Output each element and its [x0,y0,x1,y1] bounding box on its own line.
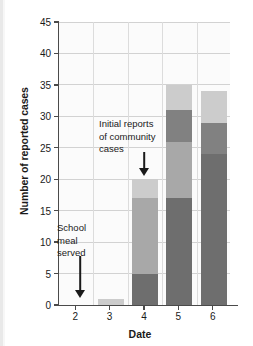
y-tick-label: 0 [45,300,51,311]
chart-figure: Number of reported cases Date 0510152025… [0,0,253,346]
y-axis-title: Number of reported cases [18,51,30,251]
y-tick-mark [54,147,59,148]
y-tick-mark [54,210,59,211]
annotation-arrow-school-icon [74,256,86,298]
bar-6 [201,91,227,305]
y-gridline [59,84,230,85]
bar-segment-dark-gray-segment [166,198,192,305]
bar-segment-dark-gray-segment [132,274,158,305]
x-gridline [93,22,94,305]
y-tick-label: 15 [40,205,51,216]
y-gridline [59,53,230,54]
y-tick-mark [54,273,59,274]
y-tick-mark [54,84,59,85]
x-tick-label: 3 [107,311,113,322]
y-tick-label: 30 [40,111,51,122]
x-axis-title: Date [45,328,235,340]
x-axis-line [58,305,238,306]
x-tick-mark [212,305,213,310]
x-tick-mark [109,305,110,310]
y-tick-mark [54,21,59,22]
x-tick-mark [75,305,76,310]
y-tick-mark [54,53,59,54]
y-tick-label: 35 [40,79,51,90]
annotation-school-meal-served: School meal served [57,222,109,260]
y-tick-mark [54,116,59,117]
bar-segment-light-gray-segment [166,85,192,110]
page-edge-artifact-inner [3,0,5,346]
bar-4 [132,179,158,305]
y-tick-label: 10 [40,237,51,248]
y-tick-label: 45 [40,17,51,28]
y-tick-label: 20 [40,174,51,185]
x-tick-label: 2 [72,311,78,322]
y-tick-label: 40 [40,48,51,59]
bar-segment-dark-gray-segment [201,154,227,305]
y-gridline [59,22,230,23]
x-tick-label: 5 [176,311,182,322]
bar-segment-light-gray-segment [201,91,227,122]
x-tick-label: 6 [210,311,216,322]
x-tick-mark [143,305,144,310]
bar-segment-light-gray-segment [132,179,158,198]
annotation-arrow-community-icon [138,152,150,176]
annotation-initial-community-cases: Initial reports of community cases [99,118,185,156]
y-tick-label: 25 [40,142,51,153]
bar-segment-mid-dark-gray-segment [201,123,227,154]
x-tick-mark [178,305,179,310]
x-tick-label: 4 [141,311,147,322]
y-tick-label: 5 [45,268,51,279]
y-tick-mark [54,179,59,180]
x-gridline [197,22,198,305]
x-gridline [128,22,129,305]
x-gridline [162,22,163,305]
bar-segment-medium-gray-segment [132,198,158,273]
